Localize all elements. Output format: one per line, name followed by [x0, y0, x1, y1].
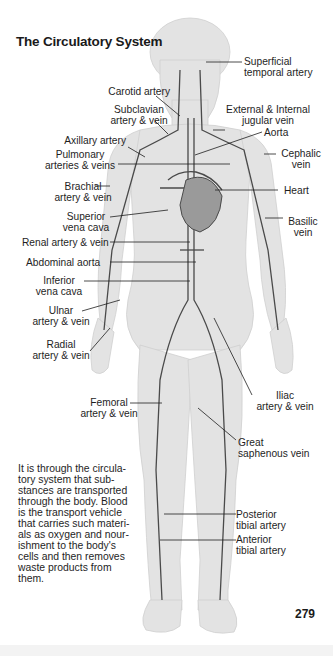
label-axillary-artery: Axillary artery [46, 135, 126, 146]
label-subclavian: Subclavian artery & vein [104, 104, 174, 126]
label-aorta: Aorta [264, 127, 288, 138]
label-femoral: Femoral artery & vein [78, 397, 140, 419]
label-anterior-tibial-artery: Anterior tibial artery [236, 534, 286, 556]
label-iliac: Iliac artery & vein [252, 390, 318, 412]
label-cephalic-vein: Cephalic vein [276, 148, 326, 170]
label-superior-vena-cava: Superior vena cava [56, 211, 116, 233]
label-carotid-artery: Carotid artery [100, 86, 170, 97]
label-ulnar: Ulnar artery & vein [30, 305, 92, 327]
label-superficial-temporal-artery: Superficial temporal artery [244, 56, 313, 78]
label-inferior-vena-cava: Inferior vena cava [34, 275, 84, 297]
label-radial: Radial artery & vein [30, 339, 92, 361]
label-heart: Heart [284, 185, 309, 196]
label-great-saphenous-vein: Great saphenous vein [238, 437, 309, 459]
label-abdominal-aorta: Abdominal aorta [26, 257, 100, 268]
page-bottom-edge [0, 645, 333, 656]
label-jugular-vein: External & Internal jugular vein [218, 104, 318, 126]
label-renal: Renal artery & vein [22, 237, 109, 248]
label-basilic-vein: Basilic vein [283, 216, 323, 238]
label-posterior-tibial-artery: Posterior tibial artery [236, 509, 286, 531]
label-pulmonary: Pulmonary arteries & veins [40, 149, 120, 171]
label-brachial: Brachial artery & vein [50, 181, 116, 203]
diagram-title: The Circulatory System [16, 34, 162, 49]
description-paragraph: It is through the circula- tory system t… [18, 463, 133, 584]
page-number: 279 [295, 607, 315, 621]
